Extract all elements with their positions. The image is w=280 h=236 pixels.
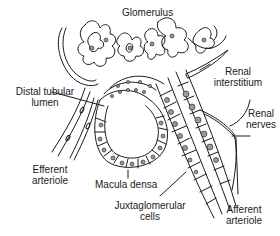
afferent-arteriole [156,70,236,218]
label-renal-nerves: Renal nerves [242,108,280,130]
label-juxtaglomerular-cells: Juxtaglomerular cells [110,200,190,222]
juxtaglomerular-apparatus-diagram: Glomerulus Distal tubular lumen Renal in… [0,0,280,236]
distal-tubule [95,76,168,168]
label-distal-tubular-lumen-line2: lumen [13,97,77,108]
label-renal-interstitium-line2: interstitium [210,77,266,88]
label-juxtaglomerular-cells-line2: cells [110,211,190,222]
label-efferent-arteriole: Efferent arteriole [26,164,74,186]
label-distal-tubular-lumen-line1: Distal tubular [13,86,77,97]
label-efferent-arteriole-line2: arteriole [26,175,74,186]
label-renal-nerves-line1: Renal [242,108,280,119]
leader-jg-cells [160,172,186,196]
label-distal-tubular-lumen: Distal tubular lumen [13,86,77,108]
label-efferent-arteriole-line1: Efferent [26,164,74,175]
label-macula-densa: Macula densa [95,179,157,190]
label-afferent-arteriole: Afferent arteriole [220,204,268,226]
label-renal-interstitium-line1: Renal [210,66,266,77]
label-renal-nerves-line2: nerves [242,119,280,130]
glomerulus-capillaries [58,18,226,86]
label-afferent-arteriole-line1: Afferent [220,204,268,215]
label-renal-interstitium: Renal interstitium [210,66,266,88]
label-afferent-arteriole-line2: arteriole [220,215,268,226]
label-glomerulus: Glomerulus [122,7,173,18]
label-juxtaglomerular-cells-line1: Juxtaglomerular [110,200,190,211]
